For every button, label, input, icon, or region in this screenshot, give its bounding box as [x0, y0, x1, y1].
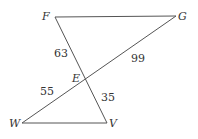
- point-label-G: G: [178, 10, 187, 23]
- point-label-W: W: [9, 117, 22, 130]
- length-EG: 99: [131, 52, 145, 65]
- point-label-E: E: [71, 72, 80, 85]
- length-WE: 55: [40, 85, 54, 98]
- length-FE: 63: [54, 47, 68, 60]
- segment-FG: [55, 16, 176, 17]
- segment-FV: [55, 17, 107, 123]
- geometry-diagram: F G E W V 63 99 55 35: [0, 0, 198, 139]
- point-label-V: V: [109, 117, 118, 130]
- point-label-F: F: [41, 10, 50, 23]
- length-EV: 35: [101, 91, 115, 104]
